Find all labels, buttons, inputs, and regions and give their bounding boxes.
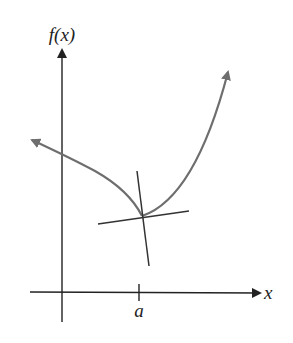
curve-left-branch <box>32 140 142 216</box>
curve-right-branch <box>142 72 228 216</box>
x-tick-label: a <box>134 300 144 321</box>
x-axis-label: x <box>263 282 273 303</box>
x-axis <box>30 292 260 293</box>
y-axis-label: f(x) <box>49 24 75 46</box>
function-diagram: f(x) x a <box>0 0 293 343</box>
